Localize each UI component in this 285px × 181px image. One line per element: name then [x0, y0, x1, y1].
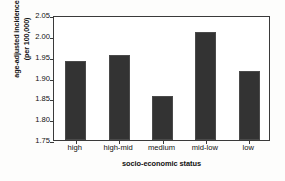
bar-chart-figure: age-adjusted incidence (per 100,000) 2.0… [0, 0, 285, 181]
x-axis-tick-label: medium [140, 143, 183, 152]
x-axis-title: socio-economic status [53, 159, 270, 168]
y-axis-tick-label: 1.80 [24, 116, 50, 124]
y-axis-title-line1: age-adjusted incidence [12, 0, 21, 77]
y-axis-tick-mark [50, 38, 54, 39]
y-axis-tick-labels: 2.052.001.951.901.851.801.75 [22, 0, 50, 181]
y-axis-tick-label: 1.95 [24, 54, 50, 62]
y-axis-tick-label: 1.75 [24, 137, 50, 145]
bar [239, 71, 260, 140]
bar-series [54, 17, 269, 140]
bar [195, 32, 216, 140]
y-axis-tick-mark [50, 80, 54, 81]
y-axis-tick-label: 1.85 [24, 95, 50, 103]
bar [109, 55, 130, 140]
x-axis-tick-label: mid-low [183, 143, 226, 152]
plot-area [53, 16, 270, 141]
y-axis-tick-label: 1.90 [24, 75, 50, 83]
y-axis-tick-mark [50, 121, 54, 122]
y-axis-tick-mark [50, 17, 54, 18]
y-axis-tick-label: 2.05 [24, 12, 50, 20]
x-axis-tick-label: low [227, 143, 270, 152]
bar [65, 61, 86, 140]
y-axis-tick-label: 2.00 [24, 33, 50, 41]
x-axis-tick-label: high-mid [96, 143, 139, 152]
y-axis-tick-mark [50, 59, 54, 60]
bar [152, 96, 173, 140]
x-axis-tick-labels: highhigh-midmediummid-lowlow [53, 143, 270, 157]
x-axis-tick-label: high [53, 143, 96, 152]
y-axis-tick-mark [50, 100, 54, 101]
